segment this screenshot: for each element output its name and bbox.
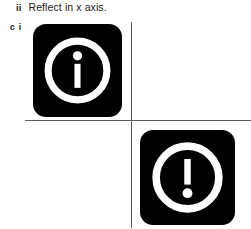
x-axis-line xyxy=(25,120,251,121)
question-prompt: ii Reflect in x axis. xyxy=(16,1,107,13)
answer-part-roman: i xyxy=(19,22,21,32)
answer-part-letter: c xyxy=(10,22,15,32)
information-circle-icon xyxy=(33,24,122,117)
info-icon-shape xyxy=(33,24,122,117)
y-axis-line xyxy=(131,22,132,228)
exclamation-circle-icon xyxy=(140,130,235,225)
exclamation-icon-shape xyxy=(140,130,235,225)
question-text: Reflect in x axis. xyxy=(28,1,106,13)
worksheet-canvas: ii Reflect in x axis. c i xyxy=(0,0,251,229)
question-part-marker: ii xyxy=(16,2,21,13)
answer-part-label: c i xyxy=(10,22,21,32)
